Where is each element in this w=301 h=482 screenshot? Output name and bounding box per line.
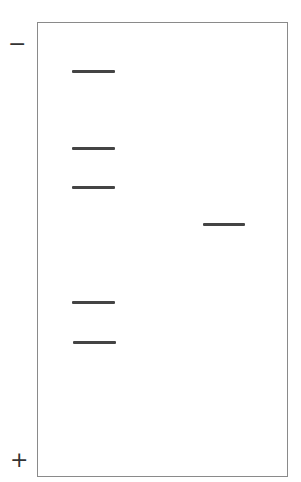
positive-electrode-label: +	[10, 449, 28, 471]
lane-1-band	[72, 186, 115, 189]
lane-1-band	[72, 147, 115, 150]
negative-electrode-label: −	[8, 33, 26, 55]
lane-1-band	[72, 70, 115, 73]
lane-1-band	[72, 301, 115, 304]
gel-box	[37, 22, 288, 477]
lane-1-band	[73, 341, 116, 344]
lane-2-band	[203, 223, 245, 226]
